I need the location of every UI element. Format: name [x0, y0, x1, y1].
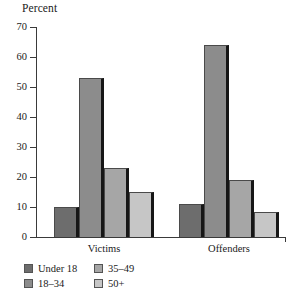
y-tick: 30	[30, 147, 36, 148]
legend-swatch	[24, 279, 33, 288]
x-axis-line	[36, 237, 286, 238]
legend-item: 35–49	[94, 263, 134, 275]
y-tick-label: 50	[17, 80, 28, 93]
legend-item: 50+	[94, 278, 134, 290]
y-tick-label: 30	[17, 140, 28, 153]
y-tick: 20	[30, 177, 36, 178]
y-tick: 50	[30, 87, 36, 88]
y-tick-label: 20	[17, 170, 28, 183]
legend-swatch	[94, 279, 103, 288]
plot-area: 010203040506070 VictimsOffenders	[36, 27, 286, 237]
y-tick-label: 0	[22, 230, 27, 243]
legend-label: 50+	[108, 278, 124, 290]
y-tick: 10	[30, 207, 36, 208]
y-tick: 70	[30, 27, 36, 28]
y-axis-title: Percent	[22, 2, 57, 14]
bar	[54, 207, 79, 237]
y-tick-label: 60	[17, 50, 28, 63]
legend-item: Under 18	[24, 263, 90, 275]
bar	[204, 45, 229, 237]
y-tick-label: 70	[17, 20, 28, 33]
y-tick: 40	[30, 117, 36, 118]
x-axis-group-label: Offenders	[208, 243, 250, 254]
bar-chart: Percent 010203040506070 VictimsOffenders…	[0, 0, 296, 297]
legend-label: 18–34	[38, 278, 64, 290]
bar	[104, 168, 129, 237]
bar	[229, 180, 254, 237]
y-tick: 0	[30, 237, 36, 238]
legend-label: 35–49	[108, 263, 134, 275]
bar	[129, 192, 154, 237]
y-tick: 60	[30, 57, 36, 58]
x-axis-end-tick	[285, 237, 286, 242]
legend-label: Under 18	[38, 263, 77, 275]
y-tick-label: 40	[17, 110, 28, 123]
y-tick-label: 10	[17, 200, 28, 213]
legend-swatch	[24, 264, 33, 273]
legend-item: 18–34	[24, 278, 90, 290]
legend-swatch	[94, 264, 103, 273]
bar	[179, 204, 204, 237]
chart-legend: Under 1835–4918–3450+	[24, 261, 134, 291]
x-axis-group-label: Victims	[88, 243, 121, 254]
bar	[79, 78, 104, 237]
y-axis-line	[36, 27, 37, 238]
bar	[254, 212, 279, 238]
